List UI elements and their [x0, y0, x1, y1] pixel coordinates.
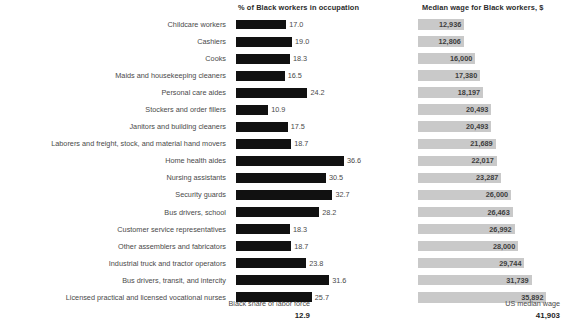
- percent-bar: [236, 54, 290, 64]
- percent-value-label: 25.7: [312, 289, 329, 306]
- percent-track: 17.0: [236, 16, 354, 33]
- chart-row: Bus drivers, school28.226,463: [0, 204, 569, 221]
- chart-row: Industrial truck and tractor operators23…: [0, 255, 569, 272]
- percent-bar: [236, 37, 292, 47]
- percent-bar: [236, 224, 290, 234]
- wage-value-label: 22,017: [418, 152, 497, 169]
- percent-bar: [236, 139, 291, 149]
- chart-row: Customer service representatives18.326,9…: [0, 221, 569, 238]
- wage-track: 20,493: [418, 118, 568, 135]
- wage-value-label: 31,739: [418, 272, 532, 289]
- occupation-label: Industrial truck and tractor operators: [0, 255, 230, 272]
- percent-track: 18.3: [236, 50, 354, 67]
- wage-value-label: 26,992: [418, 221, 515, 238]
- occupation-label: Nursing assistants: [0, 169, 230, 186]
- wage-track: 16,000: [418, 50, 568, 67]
- percent-value-label: 30.5: [326, 169, 343, 186]
- percent-bar: [236, 88, 307, 98]
- percent-value-label: 19.0: [292, 33, 309, 50]
- wage-track: 12,806: [418, 33, 568, 50]
- wage-value-label: 28,000: [418, 238, 518, 255]
- footer-black-share-label: Black share of labor force: [229, 299, 311, 308]
- percent-track: 24.2: [236, 84, 354, 101]
- percent-value-label: 24.2: [307, 84, 324, 101]
- occupation-label: Personal care aides: [0, 84, 230, 101]
- wage-track: 20,493: [418, 101, 568, 118]
- percent-track: 36.6: [236, 152, 354, 169]
- wage-track: 26,463: [418, 204, 568, 221]
- occupation-label: Stockers and order fillers: [0, 101, 230, 118]
- wage-track: 12,936: [418, 16, 568, 33]
- percent-value-label: 31.6: [329, 272, 346, 289]
- column-header-wage: Median wage for Black workers, $: [422, 3, 544, 12]
- wage-value-label: 26,463: [418, 204, 513, 221]
- percent-track: 16.5: [236, 67, 354, 84]
- wage-track: 21,689: [418, 135, 568, 152]
- chart-row: Janitors and building cleaners17.520,493: [0, 118, 569, 135]
- chart-row: Bus drivers, transit, and intercity31.63…: [0, 272, 569, 289]
- wage-value-label: 12,806: [418, 33, 464, 50]
- percent-value-label: 16.5: [285, 67, 302, 84]
- percent-value-label: 10.9: [268, 101, 285, 118]
- footer-black-share: Black share of labor force 12.9: [150, 299, 310, 321]
- percent-bar: [236, 122, 288, 132]
- percent-track: 28.2: [236, 204, 354, 221]
- percent-track: 30.5: [236, 169, 354, 186]
- percent-value-label: 36.6: [344, 152, 361, 169]
- percent-track: 18.7: [236, 135, 354, 152]
- chart-row: Childcare workers17.012,936: [0, 16, 569, 33]
- percent-value-label: 18.3: [290, 221, 307, 238]
- percent-track: 32.7: [236, 186, 354, 203]
- occupation-label: Maids and housekeeping cleaners: [0, 67, 230, 84]
- percent-bar: [236, 71, 285, 81]
- occupation-label: Cooks: [0, 50, 230, 67]
- wage-value-label: 17,380: [418, 67, 480, 84]
- wage-track: 29,744: [418, 255, 568, 272]
- percent-value-label: 28.2: [319, 204, 336, 221]
- footer-us-median-wage-label: US median wage: [505, 299, 560, 308]
- percent-value-label: 32.7: [332, 186, 349, 203]
- wage-value-label: 20,493: [418, 101, 491, 118]
- wage-value-label: 21,689: [418, 135, 496, 152]
- percent-bar: [236, 241, 291, 251]
- footer-black-share-value: 12.9: [150, 311, 310, 322]
- chart-row: Cashiers19.012,806: [0, 33, 569, 50]
- occupation-label: Cashiers: [0, 33, 230, 50]
- occupation-label: Security guards: [0, 186, 230, 203]
- percent-track: 18.3: [236, 221, 354, 238]
- percent-bar: [236, 207, 319, 217]
- percent-bar: [236, 20, 286, 30]
- dual-bar-chart: % of Black workers in occupation Median …: [0, 0, 569, 328]
- chart-row: Security guards32.726,000: [0, 186, 569, 203]
- wage-track: 23,287: [418, 169, 568, 186]
- chart-row: Nursing assistants30.523,287: [0, 169, 569, 186]
- percent-bar: [236, 156, 344, 166]
- percent-track: 31.6: [236, 272, 354, 289]
- percent-value-label: 18.7: [291, 135, 308, 152]
- chart-row: Maids and housekeeping cleaners16.517,38…: [0, 67, 569, 84]
- occupation-label: Laborers and freight, stock, and materia…: [0, 135, 230, 152]
- wage-value-label: 20,493: [418, 118, 491, 135]
- wage-track: 31,739: [418, 272, 568, 289]
- percent-track: 19.0: [236, 33, 354, 50]
- percent-bar: [236, 190, 332, 200]
- percent-track: 18.7: [236, 238, 354, 255]
- wage-track: 18,197: [418, 84, 568, 101]
- percent-bar: [236, 173, 326, 183]
- percent-value-label: 18.3: [290, 50, 307, 67]
- percent-bar: [236, 105, 268, 115]
- wage-track: 28,000: [418, 238, 568, 255]
- percent-track: 10.9: [236, 101, 354, 118]
- occupation-label: Childcare workers: [0, 16, 230, 33]
- wage-track: 22,017: [418, 152, 568, 169]
- column-header-percent: % of Black workers in occupation: [238, 3, 359, 12]
- chart-row: Home health aides36.622,017: [0, 152, 569, 169]
- percent-value-label: 23.8: [306, 255, 323, 272]
- percent-track: 17.5: [236, 118, 354, 135]
- wage-value-label: 12,936: [418, 16, 464, 33]
- percent-value-label: 17.0: [286, 16, 303, 33]
- occupation-label: Home health aides: [0, 152, 230, 169]
- occupation-label: Other assemblers and fabricators: [0, 238, 230, 255]
- percent-bar: [236, 275, 329, 285]
- wage-track: 26,992: [418, 221, 568, 238]
